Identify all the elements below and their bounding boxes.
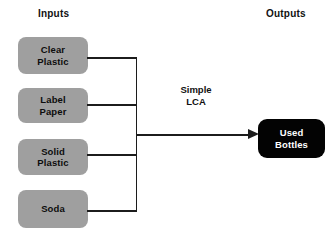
- connector-soda: [87, 210, 137, 212]
- outputs-column-heading: Outputs: [266, 8, 306, 19]
- connector-clear-plastic: [87, 57, 137, 59]
- input-node-clear-plastic-label: Clear Plastic: [37, 44, 68, 67]
- input-node-label-paper[interactable]: Label Paper: [18, 88, 88, 123]
- connector-process-to-output: [136, 134, 252, 136]
- input-node-solid-plastic-label: Solid Plastic: [37, 146, 68, 169]
- process-label: Simple LCA: [160, 84, 232, 107]
- connector-label-paper: [87, 104, 137, 106]
- input-node-solid-plastic[interactable]: Solid Plastic: [18, 139, 88, 175]
- input-node-label-paper-label: Label Paper: [40, 94, 67, 117]
- inputs-column-heading: Inputs: [38, 8, 69, 19]
- output-node-used-bottles[interactable]: Used Bottles: [258, 119, 325, 158]
- input-node-clear-plastic[interactable]: Clear Plastic: [18, 37, 88, 74]
- input-node-soda-label: Soda: [41, 203, 65, 215]
- connector-solid-plastic: [87, 154, 137, 156]
- diagram-canvas: Inputs Outputs Clear Plastic Label Paper…: [0, 0, 335, 242]
- output-node-used-bottles-label: Used Bottles: [275, 127, 308, 150]
- input-node-soda[interactable]: Soda: [18, 190, 88, 228]
